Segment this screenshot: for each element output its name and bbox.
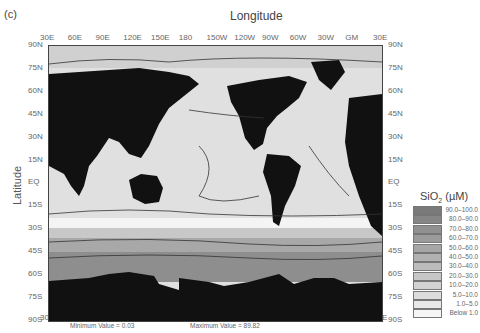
legend-label: 10.0–20.0 <box>444 281 478 288</box>
y-tick: 30S <box>388 223 402 232</box>
y-tick: 15S <box>388 200 402 209</box>
legend-swatch <box>413 253 442 262</box>
x-tick: 120W <box>234 33 255 42</box>
y-tick: 75N <box>388 63 403 72</box>
y-tick: 60S <box>28 269 42 278</box>
legend-label: 20.0–30.0 <box>444 272 478 279</box>
map-canvas <box>49 46 382 321</box>
x-tick: 180 <box>179 33 192 42</box>
x-tick: 60E <box>68 33 82 42</box>
y-tick: 45S <box>28 246 42 255</box>
legend-label: 40.0–50.0 <box>444 253 478 260</box>
legend-swatch <box>413 215 442 224</box>
legend-swatch <box>413 272 442 281</box>
legend-label: 80.0–90.0 <box>444 215 478 222</box>
y-tick: 45N <box>388 109 403 118</box>
legend-swatch <box>413 309 442 318</box>
y-tick: 45N <box>28 109 43 118</box>
y-tick: 60N <box>388 86 403 95</box>
legend-label: 90.0–100.0 <box>444 206 478 213</box>
silicate-map <box>48 45 383 322</box>
legend-swatch <box>413 262 442 271</box>
y-tick: 30N <box>28 132 43 141</box>
x-tick: 120E <box>123 33 142 42</box>
y-tick: 75N <box>28 63 43 72</box>
legend-label: 1.0–5.0 <box>444 300 478 307</box>
y-tick: 60S <box>388 269 402 278</box>
y-tick: 60N <box>28 86 43 95</box>
y-axis-label: Latitude <box>11 166 23 205</box>
y-tick: 15N <box>28 155 43 164</box>
y-tick: 75S <box>28 292 42 301</box>
panel-label: (c) <box>4 8 17 20</box>
y-tick: 90N <box>388 40 403 49</box>
y-tick: 15S <box>28 200 42 209</box>
x-tick: 60W <box>290 33 306 42</box>
legend-label: 5.0–10.0 <box>444 291 478 298</box>
legend-swatch <box>413 225 442 234</box>
y-tick: 30S <box>28 223 42 232</box>
y-tick: 45S <box>388 246 402 255</box>
y-tick: 75S <box>388 292 402 301</box>
max-value-label: Maximum Value = 89.82 <box>190 322 260 329</box>
legend-swatch <box>413 291 442 300</box>
y-tick: 90S <box>28 315 42 324</box>
x-tick: 30W <box>318 33 334 42</box>
legend-title: SiO2 (µM) <box>420 190 468 204</box>
y-tick: 90S <box>388 315 402 324</box>
legend-swatch <box>413 234 442 243</box>
x-tick: 30E <box>373 33 387 42</box>
y-tick: EQ <box>388 177 400 186</box>
legend-label: 30.0–40.0 <box>444 262 478 269</box>
legend-label: 50.0–60.0 <box>444 244 478 251</box>
y-tick: 30N <box>388 132 403 141</box>
x-tick: 90E <box>96 33 110 42</box>
legend-label: Below 1.0 <box>444 309 478 316</box>
min-value-label: Minimum Value = 0.03 <box>70 322 134 329</box>
legend-swatch <box>413 206 442 215</box>
x-tick: 150W <box>207 33 228 42</box>
legend-label: 60.0–70.0 <box>444 234 478 241</box>
x-tick: GM <box>345 33 358 42</box>
y-tick: 15N <box>388 155 403 164</box>
x-tick: 90W <box>262 33 278 42</box>
legend-swatch <box>413 244 442 253</box>
legend-swatch <box>413 281 442 290</box>
x-tick: 150E <box>151 33 170 42</box>
legend-label: 70.0–80.0 <box>444 225 478 232</box>
legend-swatch <box>413 300 442 309</box>
y-tick: 90N <box>28 40 43 49</box>
chart-title: Longitude <box>230 9 283 23</box>
y-tick: EQ <box>28 177 40 186</box>
